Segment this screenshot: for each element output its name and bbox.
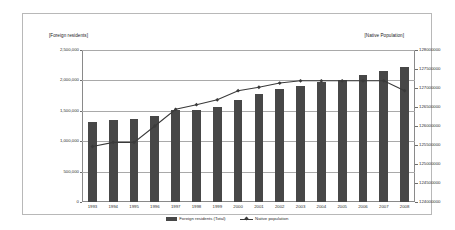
legend-item-native-population: Native population <box>240 216 289 221</box>
line-marker <box>257 85 261 89</box>
line-marker <box>111 140 115 144</box>
line-path <box>92 81 404 147</box>
right-axis-tickmark <box>415 126 418 127</box>
left-axis-title: [Foreign residents] <box>49 33 88 38</box>
right-axis-tickmark <box>415 145 418 146</box>
x-axis-tick-label: 2000 <box>233 204 243 209</box>
right-axis-tickmark <box>415 164 418 165</box>
right-axis-tick-label: 126500000 <box>419 105 441 109</box>
right-axis-tick-label: 128000000 <box>419 48 441 52</box>
x-axis-tick-label: 2003 <box>296 204 306 209</box>
right-axis-tick-labels: 1240000001245000001250000001255000001260… <box>419 50 455 202</box>
x-axis-tick-label: 1999 <box>213 204 223 209</box>
legend-label-native-population: Native population <box>255 216 288 221</box>
right-axis-tick-label: 124000000 <box>419 200 441 204</box>
line-marker <box>299 79 303 83</box>
right-axis-tickmarks <box>415 50 418 202</box>
x-axis-tick-label: 2001 <box>254 204 264 209</box>
right-axis-tick-label: 124500000 <box>419 181 441 185</box>
right-axis-tickmark <box>415 202 418 203</box>
x-axis-tick-label: 2005 <box>337 204 347 209</box>
line-marker <box>215 98 219 102</box>
line-marker <box>278 81 282 85</box>
left-axis-tickmark <box>80 202 83 203</box>
left-axis-tick-label: 2,000,000 <box>60 78 79 82</box>
right-axis-tick-label: 126000000 <box>419 124 441 128</box>
line-marker <box>361 79 365 83</box>
line-marker <box>319 79 323 83</box>
left-axis-tick-label: 2,500,000 <box>60 48 79 52</box>
chart-frame: [Foreign residents] [Native Population] … <box>22 13 432 215</box>
line-marker <box>382 79 386 83</box>
right-axis-tickmark <box>415 88 418 89</box>
right-axis-title: [Native Population] <box>364 33 404 38</box>
left-axis-tick-labels: 0500,0001,000,0001,500,0002,000,0002,500… <box>41 50 79 202</box>
x-axis-tick-label: 2004 <box>317 204 327 209</box>
line-marker <box>195 103 199 107</box>
plot-area <box>82 50 415 202</box>
left-axis-tick-label: 500,000 <box>63 169 79 173</box>
chart-legend: Foreign residents (Total) Native populat… <box>23 216 431 221</box>
line-marker <box>340 79 344 83</box>
x-axis-tick-label: 1997 <box>171 204 181 209</box>
line-marker <box>236 89 240 93</box>
legend-label-foreign-residents: Foreign residents (Total) <box>179 216 225 221</box>
right-axis-tick-label: 125000000 <box>419 162 441 166</box>
line-marker-swatch-icon <box>240 216 253 221</box>
left-axis-tick-label: 1,000,000 <box>60 139 79 143</box>
legend-item-foreign-residents: Foreign residents (Total) <box>166 216 226 221</box>
x-axis-tick-label: 1993 <box>88 204 98 209</box>
bar-swatch-icon <box>166 217 177 221</box>
right-axis-tickmark <box>415 107 418 108</box>
x-axis-tick-labels: 1993199419951996199719981999200020012002… <box>82 204 415 214</box>
x-axis-tick-label: 1995 <box>129 204 139 209</box>
x-axis-tick-label: 1996 <box>150 204 160 209</box>
right-axis-tickmark <box>415 183 418 184</box>
line-marker <box>91 145 95 149</box>
right-axis-tickmark <box>415 50 418 51</box>
left-axis-tick-label: 1,500,000 <box>60 109 79 113</box>
x-axis-tick-label: 2002 <box>275 204 285 209</box>
line-series-native-population <box>82 50 415 202</box>
x-axis-tick-label: 2006 <box>358 204 368 209</box>
line-marker <box>403 89 407 93</box>
right-axis-tick-label: 127000000 <box>419 86 441 90</box>
right-axis-tickmark <box>415 69 418 70</box>
x-axis-tick-label: 1994 <box>108 204 118 209</box>
x-axis-tick-label: 2008 <box>400 204 410 209</box>
x-axis-tick-label: 1998 <box>192 204 202 209</box>
right-axis-tick-label: 125500000 <box>419 143 441 147</box>
x-axis-tick-label: 2007 <box>379 204 389 209</box>
right-axis-tick-label: 127500000 <box>419 67 441 71</box>
